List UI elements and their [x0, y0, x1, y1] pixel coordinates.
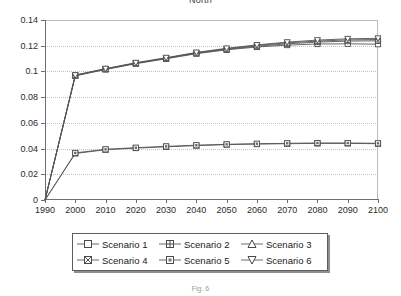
y-tick-label: 0.02 [20, 169, 38, 179]
x-tick [378, 199, 379, 203]
x-tick-label: 2040 [186, 205, 206, 215]
series-4 [45, 141, 381, 200]
y-tick-label: 0 [33, 195, 38, 205]
chart-title: North [0, 0, 401, 5]
y-tick-label: 0.04 [20, 144, 38, 154]
x-tick-label: 1990 [35, 205, 55, 215]
legend-label: Scenario 4 [102, 255, 147, 266]
legend-row: Scenario 1 Scenario 2 Scenario 3 [77, 236, 323, 252]
series-3 [45, 37, 381, 200]
series-2 [45, 38, 381, 200]
y-tick-label: 0.12 [20, 41, 38, 51]
chart-legend: Scenario 1 Scenario 2 Scenario 3 [72, 233, 328, 271]
square-open-icon [77, 238, 99, 250]
legend-label: Scenario 5 [184, 255, 229, 266]
plot-area: 00.020.040.060.080.10.120.14 [45, 20, 378, 200]
legend-item-scenario-3[interactable]: Scenario 3 [241, 238, 323, 250]
series-1 [45, 41, 381, 200]
x-tick-label: 2000 [65, 205, 85, 215]
triangle-down-icon [241, 254, 263, 266]
series-5 [45, 140, 381, 200]
square-cross-icon [77, 254, 99, 266]
x-tick-label: 2050 [217, 205, 237, 215]
y-tick-label: 0.08 [20, 92, 38, 102]
legend-label: Scenario 6 [266, 255, 311, 266]
chart-figure: North 00.020.040.060.080.10.120.14 19902… [0, 0, 401, 296]
x-tick-label: 2060 [247, 205, 267, 215]
legend-label: Scenario 1 [102, 239, 147, 250]
x-tick-label: 2080 [307, 205, 327, 215]
figure-caption: Fig. 6 [0, 285, 401, 292]
legend-item-scenario-4[interactable]: Scenario 4 [77, 254, 159, 266]
legend-item-scenario-5[interactable]: Scenario 5 [159, 254, 241, 266]
x-tick-label: 2070 [277, 205, 297, 215]
legend-item-scenario-1[interactable]: Scenario 1 [77, 238, 159, 250]
triangle-up-icon [241, 238, 263, 250]
series-6 [45, 36, 381, 200]
x-tick-label: 2090 [338, 205, 358, 215]
x-tick-label: 2010 [96, 205, 116, 215]
x-tick-label: 2030 [156, 205, 176, 215]
legend-label: Scenario 2 [184, 239, 229, 250]
x-tick-label: 2100 [368, 205, 388, 215]
y-tick-label: 0.06 [20, 118, 38, 128]
y-tick-label: 0.14 [20, 15, 38, 25]
legend-label: Scenario 3 [266, 239, 311, 250]
x-tick-label: 2020 [126, 205, 146, 215]
legend-row: Scenario 4 Scenario 5 Scenario 6 [77, 252, 323, 268]
legend-item-scenario-2[interactable]: Scenario 2 [159, 238, 241, 250]
square-dotted-icon [159, 254, 181, 266]
data-series-layer [45, 20, 378, 200]
square-hbar-icon [159, 238, 181, 250]
legend-item-scenario-6[interactable]: Scenario 6 [241, 254, 323, 266]
y-tick-label: 0.1 [25, 66, 38, 76]
